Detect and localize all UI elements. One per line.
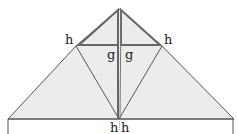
- label-top-right-h: h: [164, 33, 172, 46]
- label-top-left-h: h: [65, 33, 73, 46]
- label-bottom-right-h: h: [121, 121, 129, 134]
- fold-diagram: [0, 0, 238, 134]
- right-flap: [121, 10, 160, 45]
- label-center-left-g: g: [107, 48, 115, 61]
- label-center-right-g: g: [125, 48, 133, 61]
- diagram-canvas: h h g g h h: [0, 0, 238, 134]
- label-bottom-left-h: h: [110, 121, 118, 134]
- left-flap: [79, 10, 118, 45]
